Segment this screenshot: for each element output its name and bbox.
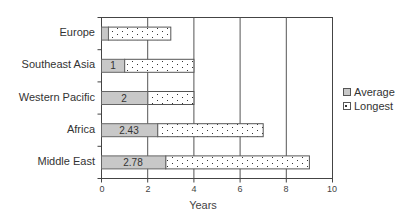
bars [102, 27, 310, 169]
x-axis-title: Years [189, 199, 217, 211]
legend-label-average: Average [354, 86, 395, 98]
bar-longest [166, 156, 310, 169]
category-label-africa: Africa [67, 123, 95, 135]
category-label-europe: Europe [60, 26, 95, 38]
legend-label-longest: Longest [354, 100, 393, 112]
average-swatch-icon [343, 88, 351, 96]
legend: Average Longest [343, 85, 395, 113]
value-label-western-pacific: 2 [121, 93, 127, 104]
bar-longest [148, 92, 194, 105]
x-tick-10: 10 [327, 184, 337, 194]
bar-longest [158, 124, 264, 137]
bar-longest [108, 27, 170, 40]
bar-average [102, 27, 109, 40]
x-tick-0: 0 [99, 184, 104, 194]
y-axis-ticks [98, 18, 102, 179]
category-label-middle-east: Middle East [38, 155, 95, 167]
x-axis-ticks [102, 179, 333, 183]
x-tick-2: 2 [145, 184, 150, 194]
bar-longest [125, 59, 194, 72]
legend-item-average: Average [343, 85, 395, 99]
category-label-southeast-asia: Southeast Asia [22, 58, 95, 70]
legend-item-longest: Longest [343, 99, 395, 113]
value-label-southeast-asia: 1 [110, 60, 116, 71]
bar-chart: Europe Southeast Asia Western Pacific Af… [0, 0, 413, 217]
category-label-western-pacific: Western Pacific [19, 91, 95, 103]
value-label-middle-east: 2.78 [123, 157, 142, 168]
x-tick-8: 8 [283, 184, 288, 194]
x-tick-6: 6 [237, 184, 242, 194]
value-label-africa: 2.43 [119, 125, 138, 136]
longest-swatch-icon [343, 102, 351, 110]
x-tick-4: 4 [191, 184, 196, 194]
